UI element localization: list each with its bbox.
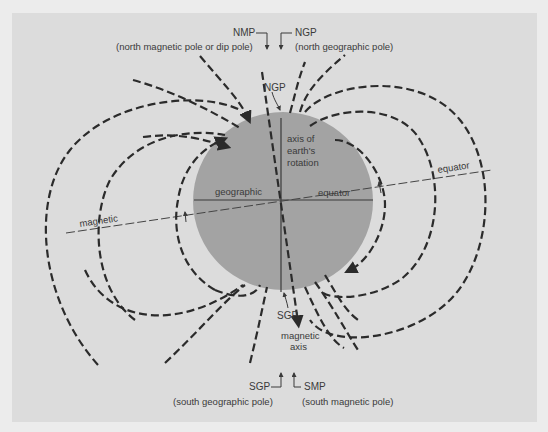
ngp-globe-pointer [272,92,280,110]
sgp-label: SGP [249,381,270,392]
sgp-globe-pointer [284,293,288,308]
equator-mag-label: equator [437,159,470,175]
smp-description: (south magnetic pole) [302,396,393,407]
nmp-description: (north magnetic pole or dip pole) [116,41,253,52]
sgp-globe-label: SGP [277,310,298,321]
bottom-pole-pointers [271,373,301,387]
magnetic-axis-label-1: magnetic [281,330,320,341]
ngp-globe-label: NGP [264,82,286,93]
magnetic-field-diagram: NMP (north magnetic pole or dip pole) NG… [0,0,548,432]
sgp-description: (south geographic pole) [173,396,273,407]
equator-arrow-left [185,212,186,222]
magnetic-axis-label-2: axis [290,341,307,352]
equator-geo-label: equator [318,187,350,198]
top-pole-pointers [256,33,292,49]
ngp-description: (north geographic pole) [295,41,393,52]
axis-rotation-label-2: earth's [287,145,315,156]
smp-label: SMP [304,381,326,392]
ngp-label: NGP [295,27,317,38]
geographic-label: geographic [215,186,262,197]
axis-rotation-label-3: rotation [287,157,319,168]
nmp-label: NMP [233,27,256,38]
magnetic-equator-label: magnetic [79,212,119,229]
axis-rotation-label-1: axis of [287,133,315,144]
